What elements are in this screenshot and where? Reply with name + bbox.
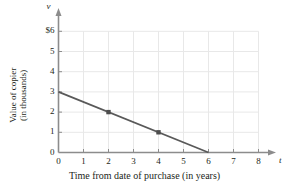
x-axis-caption: Time from date of purchase (in years) xyxy=(0,170,289,181)
x-tick-label: 2 xyxy=(99,157,119,166)
y-tick-label: $6 xyxy=(33,26,55,35)
x-tick-label: 8 xyxy=(249,157,269,166)
y-tick-label: 0 xyxy=(33,148,55,157)
data-point-marker xyxy=(156,130,160,134)
y-axis-caption-line-1: Value of copier xyxy=(8,36,18,154)
x-tick-label: 7 xyxy=(224,157,244,166)
y-tick-label: 1 xyxy=(33,127,55,136)
y-axis-variable-label: v xyxy=(47,2,51,11)
y-tick-label: 5 xyxy=(33,47,55,56)
x-tick-label: 4 xyxy=(149,157,169,166)
y-axis-caption-line-2: (in thousands) xyxy=(18,36,28,154)
y-axis-caption: Value of copier (in thousands) xyxy=(8,36,29,154)
x-tick-label: 1 xyxy=(74,157,94,166)
x-tick-label: 6 xyxy=(199,157,219,166)
y-tick-label: 2 xyxy=(33,107,55,116)
y-tick-label: 4 xyxy=(33,67,55,76)
y-tick-label: 3 xyxy=(33,87,55,96)
x-tick-label: 0 xyxy=(49,157,69,166)
data-point-marker xyxy=(106,110,110,114)
axes xyxy=(56,8,277,156)
x-tick-label: 5 xyxy=(174,157,194,166)
chart-figure: 012345678012345$6 v t Time from date of … xyxy=(0,0,289,188)
x-tick-label: 3 xyxy=(124,157,144,166)
x-axis-variable-label: t xyxy=(279,156,282,165)
